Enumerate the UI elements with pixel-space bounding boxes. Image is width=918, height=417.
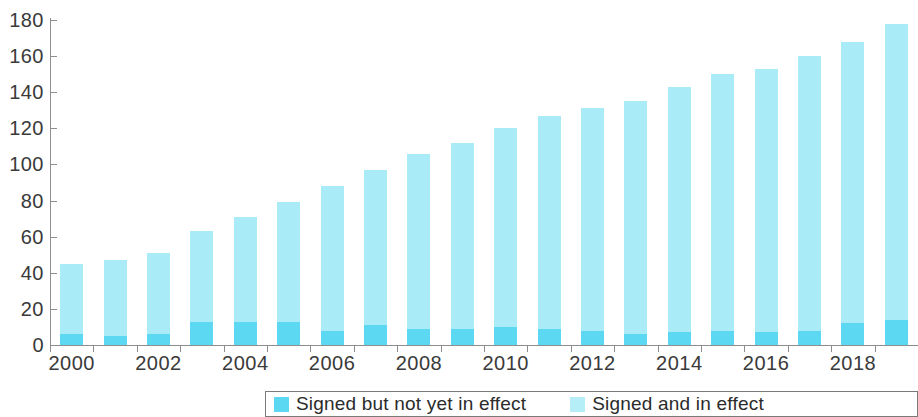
chart-legend: Signed but not yet in effect Signed and … bbox=[265, 391, 918, 417]
bar-segment-signed-not-in-effect bbox=[104, 336, 127, 345]
bar-segment-signed-in-effect bbox=[841, 42, 864, 324]
y-tick-label: 120 bbox=[0, 117, 44, 140]
bar-series-group bbox=[50, 0, 918, 345]
bar-2005 bbox=[277, 202, 300, 345]
x-tick-mark bbox=[50, 345, 51, 352]
x-tick-label: 2014 bbox=[656, 352, 703, 375]
x-tick-mark bbox=[658, 345, 659, 352]
y-tick-label: 80 bbox=[0, 189, 44, 212]
x-tick-mark bbox=[614, 345, 615, 352]
legend-item-signed-in-effect[interactable]: Signed and in effect bbox=[570, 393, 764, 415]
bar-segment-signed-in-effect bbox=[321, 186, 344, 330]
bar-2004 bbox=[234, 217, 257, 345]
bar-segment-signed-not-in-effect bbox=[494, 327, 517, 345]
x-tick-label: 2006 bbox=[309, 352, 356, 375]
bar-2015 bbox=[711, 74, 734, 345]
x-tick-label: 2010 bbox=[482, 352, 529, 375]
bar-2001 bbox=[104, 260, 127, 345]
x-tick-mark bbox=[267, 345, 268, 352]
x-tick-mark bbox=[484, 345, 485, 352]
bar-segment-signed-in-effect bbox=[364, 170, 387, 325]
x-tick-mark bbox=[527, 345, 528, 352]
y-tick-label: 40 bbox=[0, 261, 44, 284]
bar-segment-signed-in-effect bbox=[451, 143, 474, 329]
x-tick-mark bbox=[397, 345, 398, 352]
bar-segment-signed-in-effect bbox=[104, 260, 127, 336]
bar-segment-signed-not-in-effect bbox=[755, 332, 778, 345]
x-tick-mark bbox=[180, 345, 181, 352]
y-tick-label: 100 bbox=[0, 153, 44, 176]
x-tick-mark bbox=[701, 345, 702, 352]
bar-segment-signed-not-in-effect bbox=[277, 322, 300, 345]
bar-segment-signed-not-in-effect bbox=[364, 325, 387, 345]
legend-label-signed-in-effect: Signed and in effect bbox=[592, 393, 764, 415]
bar-2012 bbox=[581, 108, 604, 345]
y-tick-label: 160 bbox=[0, 45, 44, 68]
bar-segment-signed-not-in-effect bbox=[885, 320, 908, 345]
x-tick-mark bbox=[571, 345, 572, 352]
legend-swatch-signed-in-effect bbox=[570, 397, 585, 412]
x-tick-label: 2000 bbox=[48, 352, 95, 375]
bar-segment-signed-in-effect bbox=[711, 74, 734, 330]
bar-segment-signed-in-effect bbox=[668, 87, 691, 333]
x-tick-label: 2016 bbox=[743, 352, 790, 375]
bar-2007 bbox=[364, 170, 387, 345]
bar-2006 bbox=[321, 186, 344, 345]
bar-segment-signed-in-effect bbox=[190, 231, 213, 321]
legend-swatch-signed-not-in-effect bbox=[274, 397, 289, 412]
y-tick-label: 140 bbox=[0, 81, 44, 104]
x-tick-mark bbox=[788, 345, 789, 352]
bar-segment-signed-in-effect bbox=[234, 217, 257, 322]
x-tick-mark bbox=[354, 345, 355, 352]
legend-label-signed-not-in-effect: Signed but not yet in effect bbox=[296, 393, 526, 415]
stacked-bar-chart: 020406080100120140160180 200020022004200… bbox=[0, 0, 918, 417]
bar-2010 bbox=[494, 128, 517, 345]
bar-segment-signed-in-effect bbox=[538, 116, 561, 329]
bar-segment-signed-not-in-effect bbox=[60, 334, 83, 345]
x-tick-mark bbox=[441, 345, 442, 352]
bar-2003 bbox=[190, 231, 213, 345]
bar-segment-signed-in-effect bbox=[798, 56, 821, 330]
bar-2017 bbox=[798, 56, 821, 345]
bar-segment-signed-not-in-effect bbox=[407, 329, 430, 345]
x-tick-label: 2008 bbox=[396, 352, 443, 375]
bar-2009 bbox=[451, 143, 474, 345]
bar-segment-signed-not-in-effect bbox=[841, 323, 864, 345]
bar-segment-signed-not-in-effect bbox=[234, 322, 257, 345]
x-tick-mark bbox=[310, 345, 311, 352]
bar-segment-signed-not-in-effect bbox=[190, 322, 213, 345]
bar-segment-signed-in-effect bbox=[581, 108, 604, 330]
x-tick-mark bbox=[831, 345, 832, 352]
bar-segment-signed-not-in-effect bbox=[624, 334, 647, 345]
bar-segment-signed-not-in-effect bbox=[581, 331, 604, 345]
bar-segment-signed-in-effect bbox=[60, 264, 83, 334]
legend-item-signed-not-in-effect[interactable]: Signed but not yet in effect bbox=[274, 393, 526, 415]
bar-segment-signed-in-effect bbox=[624, 101, 647, 334]
bar-2018 bbox=[841, 42, 864, 345]
bar-segment-signed-not-in-effect bbox=[798, 331, 821, 345]
x-tick-label: 2004 bbox=[222, 352, 269, 375]
y-tick-label: 180 bbox=[0, 9, 44, 32]
bar-segment-signed-in-effect bbox=[407, 154, 430, 329]
bar-segment-signed-in-effect bbox=[885, 24, 908, 320]
x-tick-mark bbox=[93, 345, 94, 352]
x-tick-mark bbox=[224, 345, 225, 352]
bar-segment-signed-not-in-effect bbox=[711, 331, 734, 345]
bar-segment-signed-in-effect bbox=[147, 253, 170, 334]
bar-2013 bbox=[624, 101, 647, 345]
bar-segment-signed-in-effect bbox=[755, 69, 778, 333]
bar-segment-signed-not-in-effect bbox=[147, 334, 170, 345]
x-tick-label: 2018 bbox=[830, 352, 877, 375]
x-axis-tick-labels: 2000200220042006200820102012201420162018 bbox=[0, 352, 918, 384]
bar-2016 bbox=[755, 69, 778, 345]
bar-segment-signed-in-effect bbox=[277, 202, 300, 321]
bar-2011 bbox=[538, 116, 561, 345]
y-tick-label: 60 bbox=[0, 225, 44, 248]
bar-segment-signed-not-in-effect bbox=[668, 332, 691, 345]
x-tick-mark bbox=[137, 345, 138, 352]
bar-2000 bbox=[60, 264, 83, 345]
bar-segment-signed-not-in-effect bbox=[321, 331, 344, 345]
bar-2002 bbox=[147, 253, 170, 345]
x-tick-label: 2002 bbox=[135, 352, 182, 375]
bar-segment-signed-in-effect bbox=[494, 128, 517, 327]
